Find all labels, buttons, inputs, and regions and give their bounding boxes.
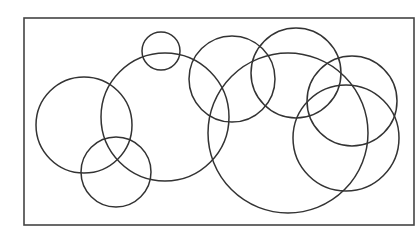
diagram-frame — [24, 18, 414, 225]
circle-small-top — [142, 32, 180, 70]
circle-top-right — [251, 28, 341, 118]
circle-top-middle — [189, 36, 275, 122]
circle-group — [36, 28, 399, 213]
circle-large — [208, 53, 368, 213]
circles-diagram — [0, 0, 417, 244]
circle-right-lower — [293, 85, 399, 191]
